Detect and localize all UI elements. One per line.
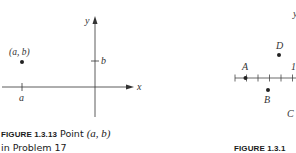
y-axis-arrow-icon — [93, 16, 98, 24]
point-label-C: C — [287, 108, 294, 119]
figure-left-caption-text: Point — [60, 128, 84, 139]
figure-right-id: FIGURE 1.3.1 — [234, 144, 285, 153]
y-tick-label-b: b — [101, 55, 106, 66]
y-axis-label: y — [84, 15, 90, 26]
figure-left-id: FIGURE 1.3.13 — [1, 130, 57, 139]
point-B — [266, 88, 270, 92]
figure-right-caption: FIGURE 1.3.1 — [234, 141, 296, 153]
x-tick-label-a: a — [19, 92, 24, 103]
point-label-D: D — [275, 40, 284, 51]
right-y-axis-label: y — [292, 8, 296, 19]
point-label-a-b: (a, b) — [9, 47, 30, 58]
point-A — [244, 76, 248, 80]
point-a-b — [20, 60, 24, 64]
figure-left-caption-math: (a, b) — [87, 127, 111, 139]
point-label-B: B — [264, 94, 270, 105]
point-label-A: A — [241, 61, 249, 72]
x-axis-label: x — [136, 81, 142, 92]
x-axis-arrow-icon — [126, 85, 134, 90]
figure-left-caption-line2: in Problem 17 — [1, 142, 67, 153]
figure-left-caption: FIGURE 1.3.13 Point (a, b) in Problem 17 — [1, 127, 149, 153]
tick-label-one: 1 — [291, 61, 296, 72]
point-D — [277, 53, 281, 57]
